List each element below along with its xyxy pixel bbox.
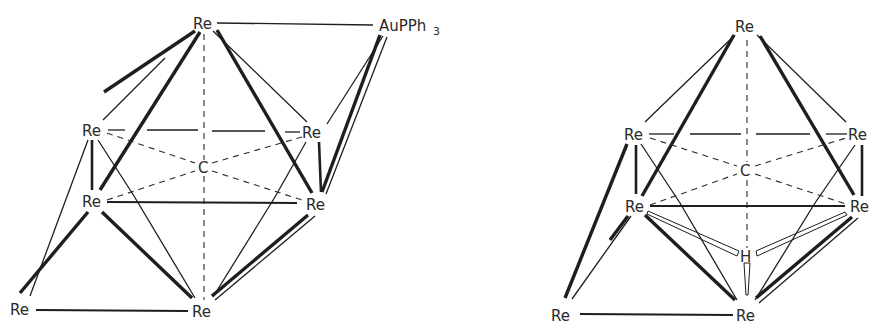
atom-au: AuPPh [379,17,426,35]
bond-ur-mr [319,142,321,192]
bond-mr-b [756,217,852,298]
atom-c: C [198,159,208,177]
atom-re-ml: Re [625,198,644,216]
bond-au-re-mr [322,35,380,192]
bond-ml-b [102,212,192,298]
atom-au-subscript: 3 [433,25,440,38]
bond-au-re-mr2 [326,37,387,194]
bond-mr-b [212,215,308,296]
bond-ml-bl [20,212,88,293]
atom-re-b: Re [192,303,211,321]
left-cluster: Re AuPPh 3 Re Re C Re Re Re Re [10,15,440,321]
bond-c-ml [650,174,737,205]
bond-ur-b [213,197,275,297]
bond-c-mr [212,171,302,200]
atom-re-bl: Re [551,307,570,325]
bond-bl-b [580,314,733,315]
bond-c-ur [755,138,846,166]
atom-re-ur: Re [848,126,867,144]
bond-mr-b-thin [215,216,315,300]
atom-re-b: Re [736,307,755,325]
bond-ul-b-a [641,144,680,203]
atom-c: C [740,162,750,180]
atom-re-ul: Re [82,122,101,140]
right-cluster: Re Re Re C H Re Re Re Re [551,18,869,325]
atom-re-top: Re [735,18,754,36]
atom-h: H [740,248,751,266]
bond-ur-b-a [815,145,855,203]
atom-re-ur: Re [302,124,321,142]
bond-re-au [217,23,373,25]
atom-re-ul: Re [624,126,643,144]
bond-ml-b [645,215,735,300]
atom-re-top: Re [193,15,212,33]
cluster-diagram: Re AuPPh 3 Re Re C Re Re Re Re [0,0,879,328]
bond-top-mr [217,30,312,193]
atom-re-ml: Re [82,193,101,211]
bond-ml-mr [107,202,297,203]
atom-re-mr: Re [306,196,325,214]
atom-re-bl: Re [10,301,29,319]
bond-ml-bl-thick [610,216,628,240]
atom-re-mr: Re [850,198,869,216]
bond-bl-b [36,310,188,311]
bond-ur-b-a [275,142,306,197]
bond-top-ml [642,35,734,196]
bond-ul-bl [565,144,627,298]
bond-ul-b [134,196,195,298]
bond-ml-h-wedge [647,211,739,256]
bond-h-b-wedge [744,263,750,295]
bond-top-ul [103,58,165,120]
